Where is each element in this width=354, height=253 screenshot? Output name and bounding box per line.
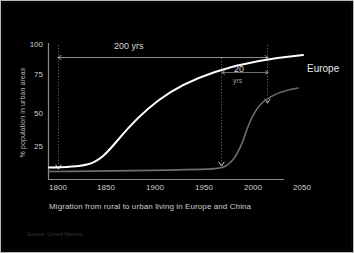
y-tick-label-50: 50 bbox=[27, 110, 43, 118]
series-line-china bbox=[49, 88, 298, 172]
y-tick-label-25: 25 bbox=[27, 143, 43, 151]
y-tick-label-100: 100 bbox=[27, 41, 43, 49]
slide-canvas: % population in urban areas 100 75 50 25… bbox=[0, 0, 354, 253]
series-line-europe bbox=[49, 55, 303, 168]
x-tick-label-2050: 2050 bbox=[287, 184, 317, 192]
x-tick-label-1950: 1950 bbox=[189, 184, 219, 192]
annotation-200-years: 200 yrs bbox=[114, 42, 144, 51]
y-tick-label-75: 75 bbox=[27, 71, 43, 79]
x-tick-label-1900: 1900 bbox=[140, 184, 170, 192]
y-axis-title: % population in urban areas bbox=[19, 48, 26, 178]
x-tick-label-1800: 1800 bbox=[43, 184, 73, 192]
annotation-20-years-unit: yrs bbox=[233, 77, 242, 84]
x-tick-label-1850: 1850 bbox=[91, 184, 121, 192]
chart-plot-area bbox=[1, 1, 354, 253]
chart-caption: Migration from rural to urban living in … bbox=[49, 203, 251, 211]
annotation-20-years-number: 20 bbox=[234, 65, 244, 74]
series-label-europe: Europe bbox=[307, 64, 339, 74]
source-note: Source: United Nations bbox=[27, 232, 83, 237]
x-tick-label-2000: 2000 bbox=[238, 184, 268, 192]
